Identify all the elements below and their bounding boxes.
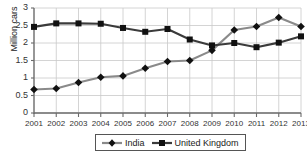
legend-item-india[interactable]: India <box>102 138 145 148</box>
data-point <box>209 42 215 48</box>
y-tick-label: 0 <box>0 107 28 117</box>
data-point <box>142 29 148 35</box>
data-point <box>253 23 261 31</box>
y-tick-label: 1.5 <box>0 55 28 65</box>
data-point <box>141 64 149 72</box>
x-tick-label: 2013 <box>288 119 307 128</box>
legend-label-india: India <box>125 138 145 148</box>
data-point <box>53 20 59 26</box>
y-tick-label: 1 <box>0 72 28 82</box>
data-point <box>76 20 82 26</box>
data-point <box>119 72 127 80</box>
legend-item-united-kingdom[interactable]: United Kingdom <box>152 138 239 148</box>
data-point <box>30 86 38 94</box>
data-point <box>97 74 105 82</box>
data-point <box>231 40 237 46</box>
data-point <box>31 24 37 30</box>
data-point <box>298 33 304 39</box>
data-point <box>52 85 60 93</box>
line-chart-figure: Million cars 00.511.522.53 2001200220032… <box>0 0 307 155</box>
data-point <box>98 21 104 27</box>
data-point <box>187 37 193 43</box>
legend-label-united-kingdom: United Kingdom <box>175 138 239 148</box>
data-point <box>275 14 283 22</box>
data-point <box>276 40 282 46</box>
data-point <box>164 58 172 66</box>
data-point <box>297 23 305 31</box>
plot-area <box>0 0 307 155</box>
chart-legend: India United Kingdom <box>95 134 246 151</box>
data-point <box>120 25 126 31</box>
y-tick-label: 2.5 <box>0 20 28 30</box>
y-tick-label: 2 <box>0 37 28 47</box>
data-point <box>186 57 194 65</box>
data-point <box>254 44 260 50</box>
y-tick-label: 0.5 <box>0 90 28 100</box>
legend-marker-diamond-icon <box>102 138 122 148</box>
legend-marker-square-icon <box>152 138 172 148</box>
y-tick-label: 3 <box>0 2 28 12</box>
data-point <box>75 79 83 87</box>
data-point <box>165 26 171 32</box>
